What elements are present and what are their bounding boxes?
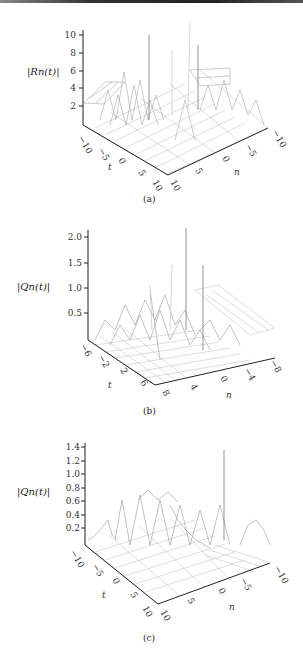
svg-text:0: 0 xyxy=(216,586,228,596)
svg-text:0.4: 0.4 xyxy=(66,510,81,520)
svg-text:n: n xyxy=(229,602,235,612)
svg-text:10: 10 xyxy=(140,604,155,619)
svg-text:−10: −10 xyxy=(272,564,290,586)
z-axis-label: |Qn(t)| xyxy=(17,486,50,497)
surface-plot-c: 1.4 1.2 1.0 0.8 0.6 0.4 0.2 −10 −5 0 5 1… xyxy=(0,0,303,655)
svg-text:t: t xyxy=(102,590,106,600)
svg-text:−5: −5 xyxy=(238,576,253,593)
svg-text:5: 5 xyxy=(128,590,140,600)
svg-text:0.8: 0.8 xyxy=(66,483,81,493)
svg-text:1.4: 1.4 xyxy=(66,442,81,452)
svg-text:−5: −5 xyxy=(90,562,105,579)
svg-text:0.6: 0.6 xyxy=(66,496,81,506)
svg-text:0.2: 0.2 xyxy=(66,523,80,533)
svg-text:10: 10 xyxy=(158,608,173,623)
svg-text:1.2: 1.2 xyxy=(66,456,80,466)
svg-text:−10: −10 xyxy=(68,548,86,570)
panel-c: 1.4 1.2 1.0 0.8 0.6 0.4 0.2 −10 −5 0 5 1… xyxy=(0,0,303,655)
svg-text:1.0: 1.0 xyxy=(66,469,81,479)
svg-text:0: 0 xyxy=(110,576,122,586)
svg-text:5: 5 xyxy=(185,596,197,606)
caption-c: (c) xyxy=(143,633,155,643)
